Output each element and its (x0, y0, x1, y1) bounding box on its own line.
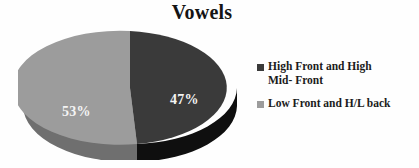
chart-legend: High Front and High Mid- Front Low Front… (257, 60, 417, 121)
legend-label-line-1: High Front and High (268, 60, 372, 72)
pie-slice-value-low-front-hl-back: 53% (62, 104, 91, 120)
pie-chart: 47% 53% (18, 26, 242, 160)
legend-item-low-front-hl-back[interactable]: Low Front and H/L back (257, 97, 417, 111)
legend-swatch-icon-high-front-high-mid-front (257, 64, 264, 71)
legend-label-low-front-hl-back: Low Front and H/L back (268, 97, 391, 111)
pie-slice-value-high-front-high-mid-front: 47% (170, 92, 199, 108)
page-title: Vowels (0, 1, 404, 23)
legend-label-high-front-high-mid-front: High Front and High Mid- Front (268, 60, 372, 87)
legend-item-high-front-high-mid-front[interactable]: High Front and High Mid- Front (257, 60, 417, 87)
pie-chart-svg (18, 26, 242, 160)
legend-swatch-icon-low-front-hl-back (257, 101, 264, 108)
pie-top-face (18, 31, 227, 145)
legend-label-line-2: Mid- Front (268, 74, 323, 86)
chart-figure: Vowels 47% 53% (0, 0, 419, 168)
